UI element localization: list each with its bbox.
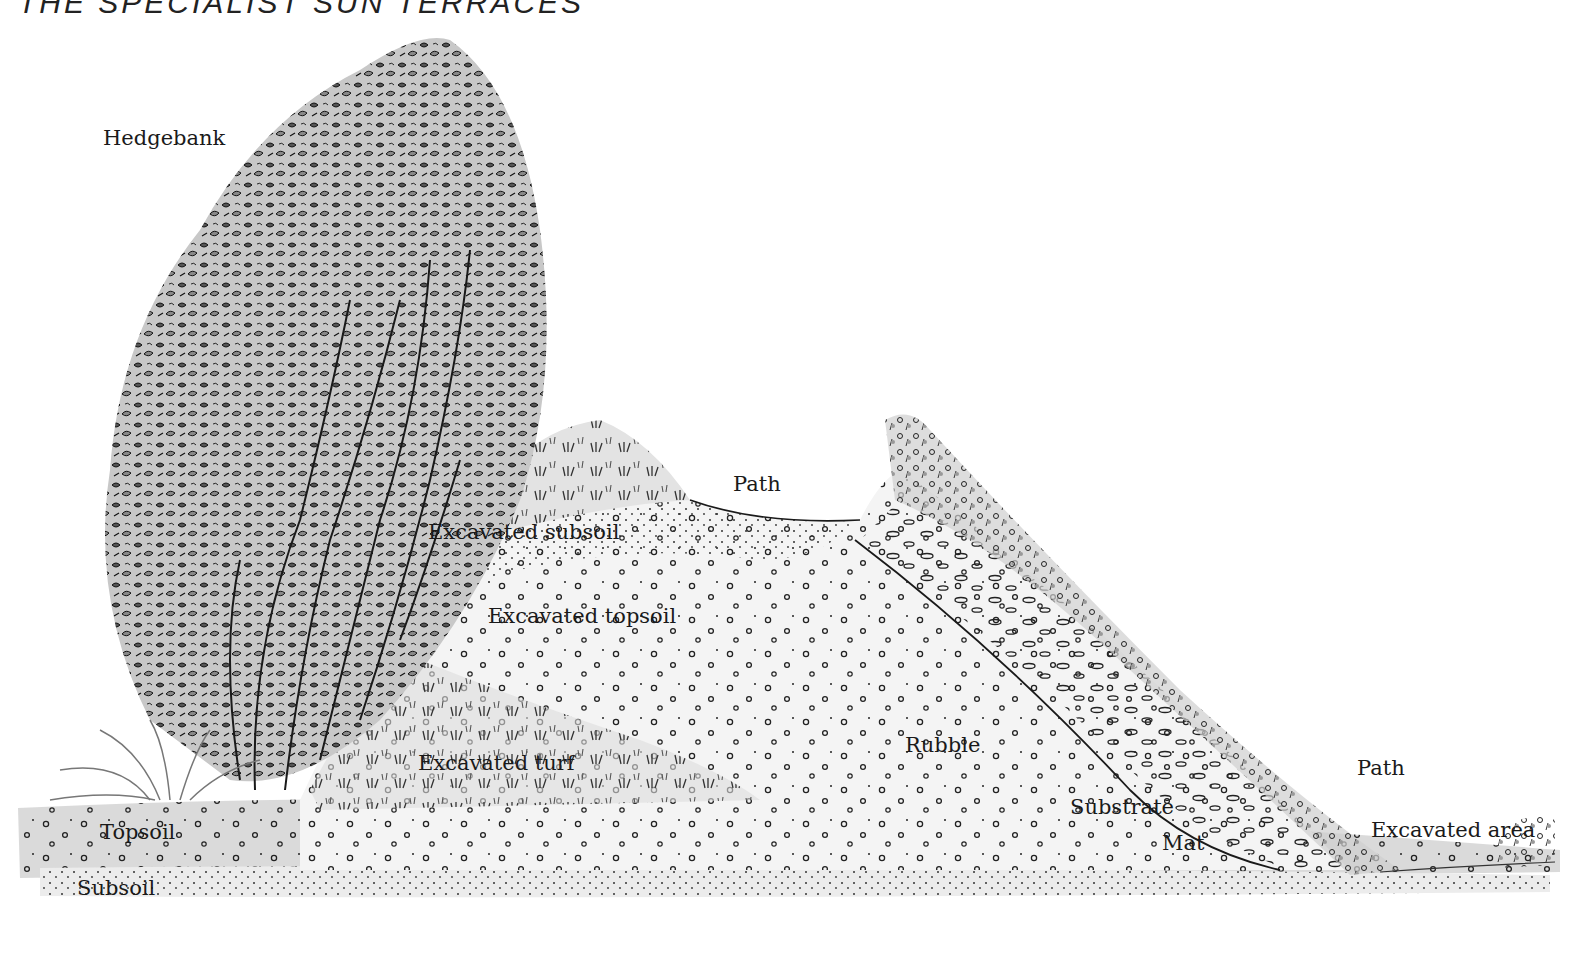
label-mat: Mat	[1162, 833, 1204, 854]
label-hedgebank: Hedgebank	[103, 128, 225, 149]
label-topsoil: Topsoil	[100, 822, 175, 843]
label-substrate: Substrate	[1070, 797, 1174, 818]
label-rubble: Rubble	[905, 735, 980, 756]
label-path-right: Path	[1357, 758, 1405, 779]
label-excavated-topsoil: Excavated topsoil	[488, 606, 676, 627]
label-excavated-turf: Excavated turf	[418, 753, 575, 774]
label-subsoil: Subsoil	[77, 878, 155, 899]
label-excavated-subsoil: Excavated subsoil	[428, 522, 619, 543]
label-path-top: Path	[733, 474, 781, 495]
illustration-drawing	[0, 0, 1593, 954]
label-excavated-area: Excavated area	[1371, 820, 1535, 841]
cross-section-diagram: THE SPECIALIST SUN TERRACES	[0, 0, 1593, 954]
